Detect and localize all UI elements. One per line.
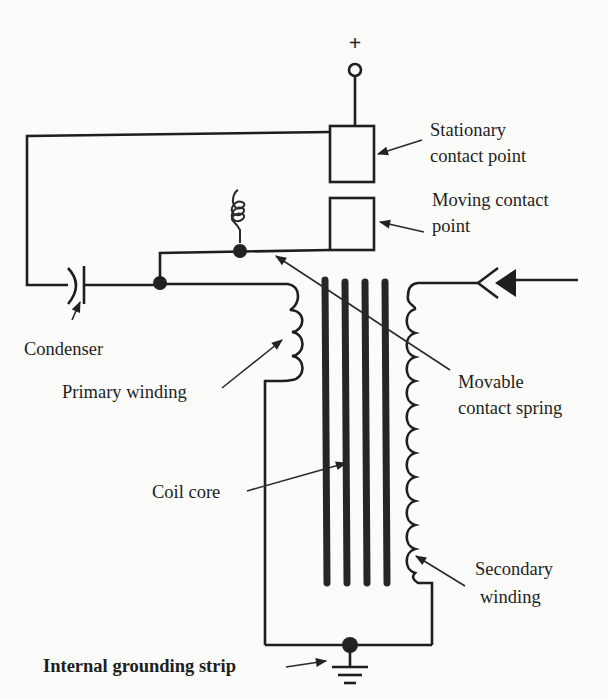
leader-secondary <box>416 556 465 586</box>
moving-contact-point <box>330 198 374 250</box>
plus-sign: + <box>349 30 362 55</box>
label-stationary-2: contact point <box>430 146 527 166</box>
label-condenser: Condenser <box>24 339 103 359</box>
contact-spring <box>232 190 247 258</box>
label-movable-2: contact spring <box>458 398 562 418</box>
leader-core <box>247 463 346 491</box>
leader-condenser <box>72 302 80 320</box>
ground-icon <box>332 645 368 683</box>
label-secondary-2: winding <box>480 587 541 607</box>
positive-terminal: + <box>349 30 362 126</box>
label-secondary-1: Secondary <box>475 559 554 579</box>
label-moving-2: point <box>432 216 471 236</box>
condenser-symbol <box>68 266 160 304</box>
label-stationary-1: Stationary <box>430 120 507 140</box>
label-primary: Primary winding <box>62 382 187 402</box>
leader-ground <box>286 661 326 667</box>
secondary-winding <box>407 283 478 645</box>
primary-winding <box>160 284 303 645</box>
label-movable-1: Movable <box>458 372 524 392</box>
label-moving-1: Moving contact <box>432 190 549 210</box>
high-tension-lead <box>478 268 578 298</box>
label-core: Coil core <box>152 482 220 502</box>
coil-core <box>325 280 387 583</box>
leader-moving <box>380 222 424 232</box>
ignition-coil-diagram: + <box>0 0 608 698</box>
label-ground: Internal grounding strip <box>43 656 236 676</box>
stationary-contact-point <box>330 126 374 182</box>
leader-stationary <box>378 140 422 154</box>
